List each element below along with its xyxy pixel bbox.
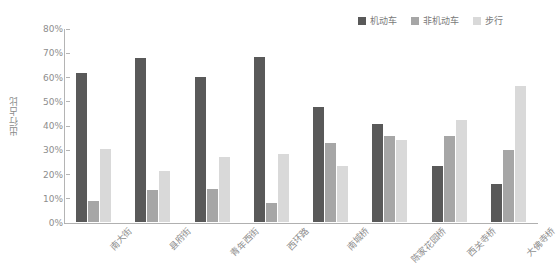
bar-group xyxy=(360,24,419,222)
bar[interactable] xyxy=(384,136,395,222)
x-axis-label: 西关寺桥 xyxy=(466,226,499,259)
y-tick-label: 30% xyxy=(43,145,66,155)
bar-group xyxy=(64,24,123,222)
x-axis-line xyxy=(64,223,538,224)
bar[interactable] xyxy=(491,184,502,222)
y-axis-title: 出行占比 xyxy=(6,96,19,136)
plot-area: 80%70%60%50%40%30%20%10%0% xyxy=(64,25,538,223)
bar[interactable] xyxy=(372,124,383,222)
bar-group xyxy=(123,24,182,222)
bar[interactable] xyxy=(337,166,348,222)
bar-group xyxy=(183,24,242,222)
bar[interactable] xyxy=(432,166,443,222)
x-axis-label: 县府街 xyxy=(167,226,193,252)
y-tick-label: 20% xyxy=(43,170,66,180)
y-tick-label: 40% xyxy=(43,121,66,131)
bar[interactable] xyxy=(195,77,206,223)
bar[interactable] xyxy=(444,136,455,222)
y-tick-label: 10% xyxy=(43,194,66,204)
bar[interactable] xyxy=(396,140,407,222)
bar-group xyxy=(420,24,479,222)
y-tick-mark xyxy=(66,223,70,224)
bar[interactable] xyxy=(135,58,146,222)
bar[interactable] xyxy=(325,143,336,222)
x-axis-label: 南大街 xyxy=(108,226,134,252)
y-tick-label: 80% xyxy=(43,24,66,34)
bar[interactable] xyxy=(100,149,111,222)
x-axis-label: 陈家花园桥 xyxy=(409,226,448,265)
bar[interactable] xyxy=(266,203,277,222)
x-axis-labels: 南大街县府街青年西街西环路南城桥陈家花园桥西关寺桥大佛寺桥 xyxy=(64,226,538,278)
bar[interactable] xyxy=(88,201,99,222)
bar[interactable] xyxy=(207,189,218,222)
y-tick-label: 60% xyxy=(43,73,66,83)
bar-group xyxy=(479,24,538,222)
bar[interactable] xyxy=(159,171,170,222)
bar[interactable] xyxy=(313,107,324,222)
x-axis-label: 西环路 xyxy=(285,226,311,252)
y-tick-label: 50% xyxy=(43,97,66,107)
bar[interactable] xyxy=(515,86,526,222)
bar[interactable] xyxy=(503,150,514,222)
bar[interactable] xyxy=(76,73,87,222)
bar-group xyxy=(301,24,360,222)
bar[interactable] xyxy=(278,154,289,222)
bar[interactable] xyxy=(147,190,158,222)
bar[interactable] xyxy=(456,120,467,222)
x-axis-label: 南城桥 xyxy=(345,226,371,252)
bar[interactable] xyxy=(254,57,265,222)
bar-group xyxy=(242,24,301,222)
bar[interactable] xyxy=(219,157,230,222)
y-tick-label: 70% xyxy=(43,48,66,58)
x-axis-label: 青年西街 xyxy=(229,226,262,259)
x-axis-label: 大佛寺桥 xyxy=(525,226,557,259)
